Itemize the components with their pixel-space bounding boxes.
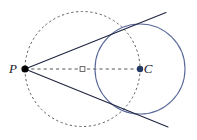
label-point-c: C [144,61,153,76]
figure-canvas: P C [0,0,197,140]
point-p-dot [21,65,28,72]
label-point-p: P [8,61,17,76]
geometry-figure: P C [0,0,197,140]
midpoint-marker-icon [80,67,85,72]
point-c-dot [137,66,143,72]
figure-background [0,0,197,140]
